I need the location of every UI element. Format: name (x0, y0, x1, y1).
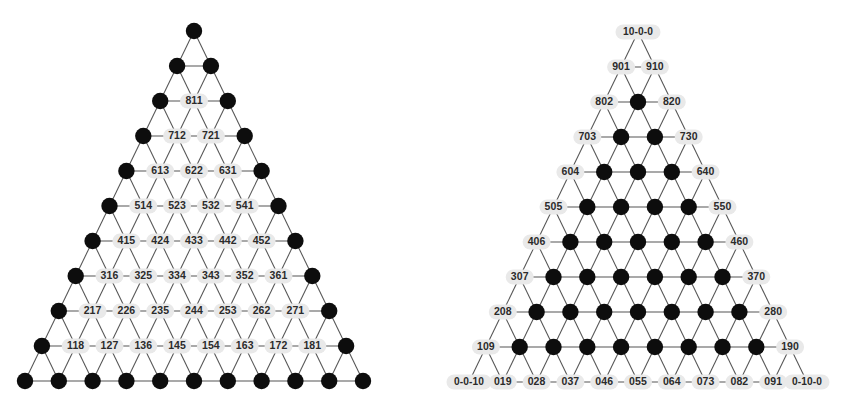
lattice-node-dot (613, 199, 629, 215)
lattice-node-dot (51, 373, 67, 389)
lattice-node-dot (630, 164, 646, 180)
node-label-text: 046 (595, 375, 613, 387)
node-label-text: 118 (67, 339, 84, 351)
lattice-node-dot (562, 304, 578, 320)
lattice-node-dot (545, 269, 561, 285)
lattice-node-dot (630, 304, 646, 320)
lattice-node-dot (17, 373, 33, 389)
node-label-text: 442 (219, 234, 237, 246)
lattice-node-dot (714, 339, 730, 355)
lattice-node-dot (169, 58, 185, 74)
node-label-text: 514 (134, 199, 152, 211)
node-label-text: 901 (612, 60, 630, 72)
lattice-node-dot (220, 373, 236, 389)
node-label-text: 460 (730, 235, 748, 247)
node-label-text: 820 (663, 95, 681, 107)
lattice-node-dot (579, 199, 595, 215)
node-label-text: 307 (511, 270, 529, 282)
lattice-node-dot (697, 304, 713, 320)
lattice-node-dot (647, 199, 663, 215)
node-label-text: 208 (494, 305, 512, 317)
node-label-text: 721 (202, 129, 220, 141)
node-label-text: 811 (185, 94, 202, 106)
left-triangle-lattice: 8117127216136226315145235325414154244334… (17, 23, 371, 389)
node-label-text: 0-10-0 (792, 376, 822, 387)
node-label-text: 452 (253, 234, 271, 246)
node-label-text: 505 (545, 200, 563, 212)
lattice-node-dot (512, 339, 528, 355)
node-label-text: 343 (202, 269, 220, 281)
lattice-node-dot (270, 198, 286, 214)
node-label-text: 271 (286, 304, 304, 316)
lattice-node-dot (596, 304, 612, 320)
lattice-node-dot (51, 303, 67, 319)
node-label-text: 181 (303, 339, 321, 351)
lattice-node-dot (528, 304, 544, 320)
figure-canvas: 8117127216136226315145235325414154244334… (0, 0, 850, 419)
lattice-node-dot (630, 94, 646, 110)
lattice-node-dot (186, 23, 202, 39)
node-label-text: 0-0-10 (454, 376, 484, 387)
lattice-node-dot (152, 373, 168, 389)
node-label-text: 370 (747, 270, 765, 282)
node-label-text: 550 (714, 200, 732, 212)
node-label-text: 037 (561, 375, 579, 387)
node-label-text: 361 (270, 269, 288, 281)
node-label-text: 028 (528, 375, 546, 387)
node-label-text: 730 (680, 130, 698, 142)
lattice-node-dot (613, 129, 629, 145)
lattice-edges (469, 32, 807, 382)
lattice-node-dot (186, 373, 202, 389)
node-label-text: 631 (219, 164, 237, 176)
lattice-node-dot (681, 339, 697, 355)
lattice-node-dot (545, 339, 561, 355)
lattice-node-dot (647, 339, 663, 355)
lattice-node-dot (253, 373, 269, 389)
lattice-node-dot (562, 234, 578, 250)
lattice-node-dot (101, 198, 117, 214)
node-label-text: 154 (202, 339, 220, 351)
node-label-text: 262 (253, 304, 271, 316)
lattice-node-dot (203, 58, 219, 74)
lattice-node-dot (664, 234, 680, 250)
node-label-text: 406 (528, 235, 546, 247)
lattice-node-dot (34, 338, 50, 354)
lattice-node-dot (647, 269, 663, 285)
lattice-node-dot (220, 93, 236, 109)
lattice-node-dot (304, 268, 320, 284)
node-label-text: 217 (84, 304, 102, 316)
node-label-text: 541 (236, 199, 254, 211)
node-label-text: 244 (185, 304, 203, 316)
lattice-node-dot (321, 373, 337, 389)
lattice-node-dot (338, 338, 354, 354)
node-label-text: 064 (663, 375, 681, 387)
node-label-text: 325 (134, 269, 152, 281)
node-label-text: 190 (781, 340, 799, 352)
lattice-node-dot (253, 163, 269, 179)
lattice-node-dot (596, 164, 612, 180)
lattice-nodes (512, 94, 765, 355)
lattice-node-dot (664, 164, 680, 180)
lattice-node-dot (664, 304, 680, 320)
node-label-text: 019 (494, 375, 512, 387)
lattice-node-dot (152, 93, 168, 109)
lattice-node-dot (321, 303, 337, 319)
node-label-text: 226 (117, 304, 135, 316)
node-label-text: 703 (578, 130, 596, 142)
lattice-node-dot (748, 339, 764, 355)
node-label-text: 253 (219, 304, 237, 316)
lattice-edges (25, 31, 363, 381)
node-label-text: 073 (697, 375, 715, 387)
lattice-node-dot (135, 128, 151, 144)
lattice-node-dot (84, 233, 100, 249)
lattice-node-dot (681, 199, 697, 215)
node-label-text: 604 (561, 165, 579, 177)
lattice-node-dot (647, 129, 663, 145)
lattice-node-dot (237, 128, 253, 144)
node-label-text: 433 (185, 234, 203, 246)
node-label-text: 613 (151, 164, 169, 176)
node-label-text: 523 (168, 199, 186, 211)
lattice-node-dot (287, 373, 303, 389)
node-label-text: 334 (168, 269, 186, 281)
lattice-node-dot (596, 234, 612, 250)
